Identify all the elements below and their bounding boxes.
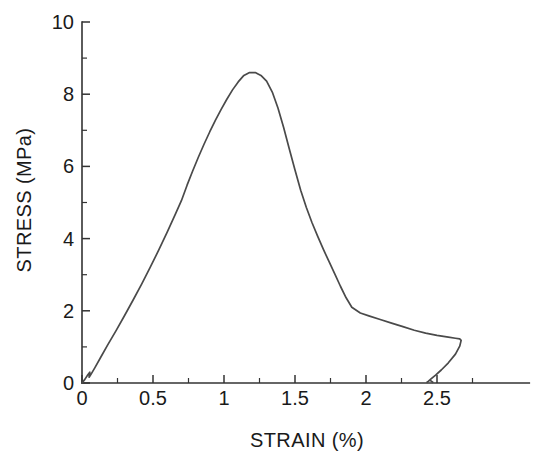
x-tick-label: 1 (218, 387, 229, 409)
x-tick-label: 2.5 (423, 387, 451, 409)
x-axis-ticks (82, 375, 473, 383)
y-axis-title: STRESS (MPa) (13, 128, 35, 273)
chart-plot-area: 0246810 00.511.522.5 STRAIN (%) STRESS (… (0, 0, 547, 457)
y-axis-ticks (82, 22, 90, 383)
x-axis-title: STRAIN (%) (250, 429, 364, 451)
y-tick-label: 0 (63, 372, 74, 394)
x-tick-label: 0 (76, 387, 87, 409)
x-tick-label: 2 (360, 387, 371, 409)
x-tick-label: 1.5 (281, 387, 309, 409)
x-tick-label: 0.5 (139, 387, 167, 409)
data-series-group (82, 73, 461, 383)
stress-strain-chart-figure: 0246810 00.511.522.5 STRAIN (%) STRESS (… (0, 0, 547, 457)
y-tick-label: 6 (63, 155, 74, 177)
x-axis-tick-labels: 00.511.522.5 (76, 387, 450, 409)
y-axis-tick-labels: 0246810 (52, 11, 74, 394)
y-tick-label: 2 (63, 300, 74, 322)
axes-group (82, 22, 529, 383)
y-tick-label: 8 (63, 83, 74, 105)
y-tick-label: 10 (52, 11, 74, 33)
stress-strain-curve (82, 73, 461, 383)
y-tick-label: 4 (63, 228, 74, 250)
